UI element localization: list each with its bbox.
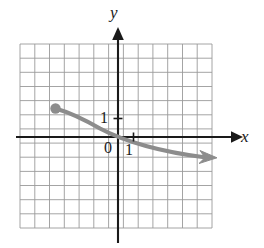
y-axis-label: y <box>110 4 118 21</box>
coordinate-plane-svg <box>0 0 264 248</box>
curve-start-point <box>50 103 60 113</box>
x-axis-label: x <box>241 128 249 145</box>
x-unit-label: 1 <box>125 142 133 158</box>
graph-figure: y x 0 1 1 <box>0 0 264 248</box>
y-unit-label: 1 <box>100 110 108 126</box>
axes <box>16 27 243 243</box>
y-axis-arrowhead <box>112 27 124 40</box>
origin-label: 0 <box>104 140 112 156</box>
